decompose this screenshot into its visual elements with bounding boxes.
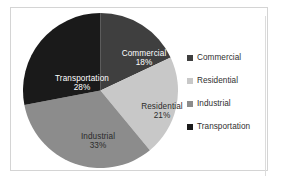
pie-slice-transportation[interactable]	[23, 13, 100, 105]
pie-slices	[23, 13, 178, 168]
legend-divider	[265, 16, 266, 176]
pie-chart: Commercial 18% Residential 21% Industria…	[23, 13, 178, 168]
legend-item-residential[interactable]: Residential	[187, 71, 269, 90]
chart-frame: Commercial 18% Residential 21% Industria…	[10, 7, 268, 171]
legend-item-industrial[interactable]: Industrial	[187, 94, 269, 113]
legend-item-transportation[interactable]: Transportation	[187, 117, 269, 136]
legend-swatch-residential-icon	[187, 78, 193, 84]
legend-label-commercial: Commercial	[197, 53, 241, 62]
plot-area: Commercial 18% Residential 21% Industria…	[11, 8, 181, 172]
pie-chart-screenshot: Commercial 18% Residential 21% Industria…	[0, 0, 281, 184]
legend-label-transportation: Transportation	[197, 122, 250, 131]
legend-item-commercial[interactable]: Commercial	[187, 48, 269, 67]
legend-swatch-commercial-icon	[187, 55, 193, 61]
chart-legend: Commercial Residential Industrial Transp…	[187, 48, 269, 140]
legend-swatch-transportation-icon	[187, 124, 193, 130]
legend-label-industrial: Industrial	[197, 99, 231, 108]
legend-label-residential: Residential	[197, 76, 238, 85]
legend-swatch-industrial-icon	[187, 101, 193, 107]
pie-svg	[23, 13, 178, 168]
